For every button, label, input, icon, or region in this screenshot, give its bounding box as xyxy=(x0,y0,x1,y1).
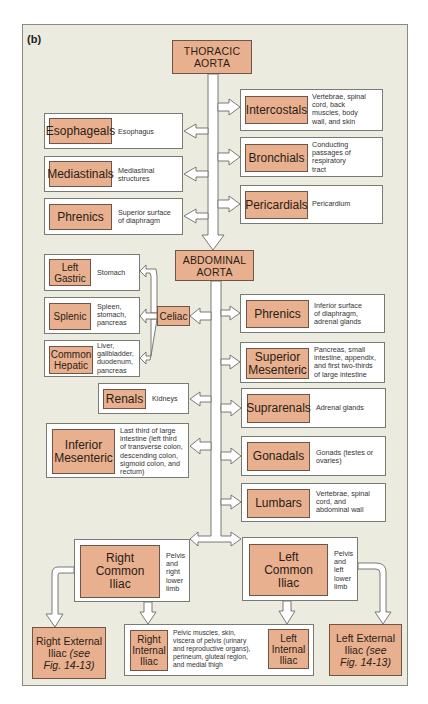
gonadals-desc: Gonads (testes orovaries) xyxy=(316,449,373,465)
left-gastric-desc: Stomach xyxy=(97,269,125,277)
pericardials-label: Pericardials xyxy=(245,191,308,219)
arrow-phrenics-sup xyxy=(184,209,208,223)
right-common-iliac-label: RightCommonIliac xyxy=(80,545,160,598)
arrow-mediastinals xyxy=(184,167,208,181)
internal-iliacs-box: RightInternalIliac Pelvic muscles, skin,… xyxy=(124,624,314,676)
phrenics-superior-box: Phrenics Superior surfaceof diaphragm xyxy=(44,198,183,235)
celiac-to-hepatic-arrow xyxy=(140,319,157,364)
renals-box: Renals Kidneys xyxy=(98,383,189,414)
esophageals-box: Esophageals Esophagus xyxy=(44,113,183,149)
phrenics-superior-desc: Superior surfaceof diaphragm xyxy=(118,209,171,225)
intercostals-label: Intercostals xyxy=(245,96,308,124)
left-common-iliac-box: LeftCommonIliac Pelvisandleftlowerlimb xyxy=(242,537,358,601)
left-gastric-box: LeftGastric Stomach xyxy=(44,254,140,291)
thoracic-trunk-arrow xyxy=(202,74,224,250)
arrow-bronchials xyxy=(218,149,240,165)
phrenics-inferior-desc: Inferior surfaceof diaphragm,adrenal gla… xyxy=(314,302,362,327)
gonadals-box: Gonadals Gonads (testes orovaries) xyxy=(241,436,386,476)
bronchials-box: Bronchials Conductingpassages ofrespirat… xyxy=(240,137,383,177)
superior-mesenteric-desc: Pancreas, smallintestine, appendix,and f… xyxy=(314,346,376,379)
right-external-iliac-box: Right External Iliac (see Fig. 14-13) xyxy=(32,627,106,679)
left-common-iliac-desc: Pelvisandleftlowerlimb xyxy=(334,550,353,591)
intercostals-box: Intercostals Vertebrae, spinalcord, back… xyxy=(240,89,383,131)
arrow-celiac xyxy=(190,308,211,324)
phrenics-superior-label: Phrenics xyxy=(49,204,112,230)
lumbars-box: Lumbars Vertebrae, spinalcord, andabdomi… xyxy=(241,483,386,522)
abdominal-aorta-label-1: ABDOMINAL xyxy=(183,254,247,266)
arrow-pericardials xyxy=(218,196,240,212)
right-common-iliac-desc: Pelvisandrightlowerlimb xyxy=(166,552,185,593)
suprarenals-label: Suprarenals xyxy=(247,394,310,423)
esophageals-desc: Esophagus xyxy=(118,128,154,136)
renals-desc: Kidneys xyxy=(152,395,178,403)
abdominal-aorta-box: ABDOMINAL AORTA xyxy=(175,250,254,281)
renals-label: Renals xyxy=(103,389,146,409)
mediastinals-label: Mediastinals xyxy=(49,161,112,187)
inferior-mesenteric-box: InferiorMesenteric Last third of largein… xyxy=(46,423,189,478)
arrow-right-external xyxy=(46,567,74,627)
mediastinals-box: Mediastinals Mediastinalstructures xyxy=(44,156,183,192)
lumbars-label: Lumbars xyxy=(247,489,310,518)
inferior-mesenteric-label: InferiorMesenteric xyxy=(52,429,115,474)
gonadals-label: Gonadals xyxy=(247,442,310,471)
suprarenals-box: Suprarenals Adrenal glands xyxy=(241,388,386,428)
arrow-gonadals xyxy=(221,448,241,464)
arrow-renals xyxy=(190,392,211,406)
pericardials-desc: Pericardium xyxy=(312,200,350,208)
arrow-left-internal xyxy=(279,601,295,624)
thoracic-aorta-label-1: THORACIC xyxy=(184,45,240,57)
arrow-intercostals xyxy=(218,99,240,115)
common-hepatic-label: CommonHepatic xyxy=(49,346,93,374)
arrow-inf-mesenteric xyxy=(190,438,211,454)
right-common-iliac-box: RightCommonIliac Pelvisandrightlowerlimb xyxy=(74,539,190,602)
thoracic-aorta-label-2: AORTA xyxy=(194,57,230,69)
left-internal-iliac-label: LeftInternalIliac xyxy=(268,629,309,669)
arrow-right-internal xyxy=(140,602,156,624)
internal-iliacs-desc: Pelvic muscles, skin,viscera of pelvis (… xyxy=(173,629,250,669)
abdominal-aorta-label-2: AORTA xyxy=(196,266,232,278)
splenic-box: Splenic Spleen,stomach,pancreas xyxy=(44,297,140,334)
suprarenals-desc: Adrenal glands xyxy=(316,404,364,412)
lumbars-desc: Vertebrae, spinalcord, andabdominal wall xyxy=(316,490,370,515)
mediastinals-desc: Mediastinalstructures xyxy=(118,167,154,183)
phrenics-inferior-label: Phrenics xyxy=(246,300,309,328)
esophageals-label: Esophageals xyxy=(49,118,112,144)
pericardials-box: Pericardials Pericardium xyxy=(240,185,383,224)
arrow-phrenics-inf xyxy=(221,306,240,320)
bronchials-desc: Conductingpassages ofrespiratorytract xyxy=(312,141,351,174)
phrenics-inferior-box: Phrenics Inferior surfaceof diaphragm,ad… xyxy=(240,294,385,333)
left-external-iliac-box: Left External Iliac (see Fig. 14-13) xyxy=(329,624,402,676)
splenic-desc: Spleen,stomach,pancreas xyxy=(97,303,127,328)
arrow-lumbars xyxy=(221,495,241,509)
splenic-label: Splenic xyxy=(49,303,91,330)
left-gastric-label: LeftGastric xyxy=(49,259,91,286)
arrow-esophageals xyxy=(184,124,208,138)
common-hepatic-box: CommonHepatic Liver,gallbladder,duodenum… xyxy=(44,340,140,377)
inferior-mesenteric-desc: Last third of largeintestine (left third… xyxy=(120,427,183,476)
right-internal-iliac-label: RightInternalIliac xyxy=(130,630,168,671)
thoracic-aorta-box: THORACIC AORTA xyxy=(172,40,252,74)
arrow-left-external xyxy=(358,563,391,624)
common-hepatic-desc: Liver,gallbladder,duodenum,pancreas xyxy=(97,342,134,375)
superior-mesenteric-box: SuperiorMesenteric Pancreas, smallintest… xyxy=(240,342,385,383)
superior-mesenteric-label: SuperiorMesenteric xyxy=(246,348,309,379)
arrow-suprarenals xyxy=(221,400,241,416)
left-common-iliac-label: LeftCommonIliac xyxy=(249,544,328,596)
intercostals-desc: Vertebrae, spinalcord, backmuscles, body… xyxy=(312,93,366,126)
celiac-box: Celiac xyxy=(157,306,190,326)
arrow-sup-mesenteric xyxy=(221,355,240,369)
celiac-distributor xyxy=(140,265,157,313)
bronchials-label: Bronchials xyxy=(245,144,308,172)
